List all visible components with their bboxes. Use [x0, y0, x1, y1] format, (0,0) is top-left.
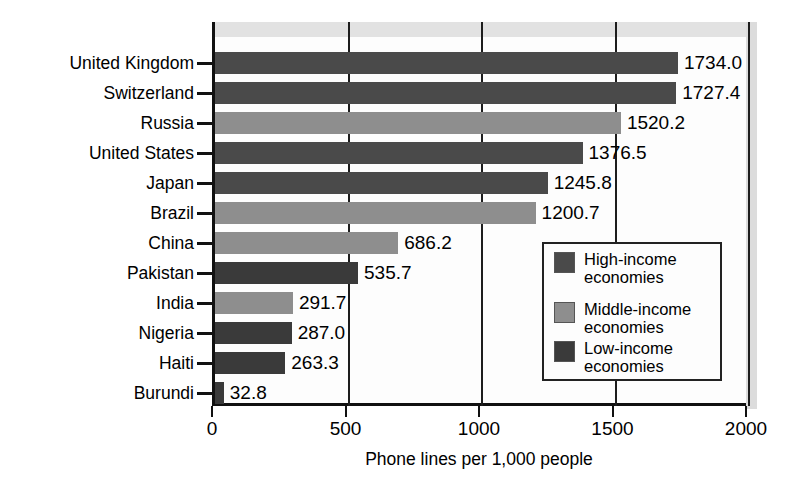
- x-tick-2000: [745, 406, 747, 417]
- bar-value-label: 1734.0: [684, 49, 742, 77]
- x-tick-500: [345, 406, 347, 417]
- bar-row: 1520.2: [215, 108, 749, 138]
- bar-burundi: [215, 382, 224, 404]
- category-label-haiti: Haiti: [159, 348, 194, 378]
- category-label-russia: Russia: [141, 108, 195, 138]
- bar-value-label: 1200.7: [542, 199, 600, 227]
- y-tick: [197, 332, 212, 335]
- y-tick: [197, 302, 212, 305]
- category-label-united-states: United States: [89, 138, 194, 168]
- category-label-japan: Japan: [146, 168, 194, 198]
- bar-russia: [215, 112, 621, 134]
- bar-value-label: 535.7: [364, 259, 412, 287]
- bar-united-kingdom: [215, 52, 678, 74]
- legend-swatch-low-icon: [554, 341, 575, 362]
- y-tick: [197, 92, 212, 95]
- x-tick-label-1500: 1500: [563, 418, 663, 440]
- y-tick: [197, 152, 212, 155]
- x-tick-label-500: 500: [296, 418, 396, 440]
- category-label-burundi: Burundi: [134, 378, 194, 408]
- x-tick-label-2000: 2000: [696, 418, 790, 440]
- bar-india: [215, 292, 293, 314]
- bar-row: 1245.8: [215, 168, 749, 198]
- bar-haiti: [215, 352, 285, 374]
- legend-label: Low-incomeeconomies: [584, 339, 673, 375]
- bar-nigeria: [215, 322, 292, 344]
- legend: High-incomeeconomiesMiddle-incomeeconomi…: [542, 242, 722, 381]
- bar-value-label: 291.7: [299, 289, 347, 317]
- legend-label: High-incomeeconomies: [584, 250, 677, 286]
- legend-item-high: High-incomeeconomies: [554, 250, 677, 286]
- bar-value-label: 1376.5: [589, 139, 647, 167]
- bar-value-label: 1727.4: [682, 79, 740, 107]
- category-label-pakistan: Pakistan: [127, 258, 194, 288]
- bar-row: 1200.7: [215, 198, 749, 228]
- bar-switzerland: [215, 82, 676, 104]
- bar-value-label: 263.3: [291, 349, 339, 377]
- chart-title: [0, 0, 790, 1]
- legend-swatch-middle-icon: [554, 302, 575, 323]
- bar-united-states: [215, 142, 583, 164]
- bar-brazil: [215, 202, 536, 224]
- y-tick: [197, 212, 212, 215]
- bar-value-label: 686.2: [404, 229, 452, 257]
- bar-value-label: 287.0: [298, 319, 346, 347]
- y-tick: [197, 242, 212, 245]
- bar-value-label: 1245.8: [554, 169, 612, 197]
- category-label-nigeria: Nigeria: [139, 318, 194, 348]
- x-tick-1500: [612, 406, 614, 417]
- bar-row: 1376.5: [215, 138, 749, 168]
- x-axis-title: Phone lines per 1,000 people: [212, 449, 746, 470]
- y-tick: [197, 392, 212, 395]
- y-tick: [197, 62, 212, 65]
- y-tick: [197, 122, 212, 125]
- bar-row: 1734.0: [215, 48, 749, 78]
- category-label-brazil: Brazil: [150, 198, 194, 228]
- x-tick-1000: [478, 406, 480, 417]
- legend-label: Middle-incomeeconomies: [584, 300, 691, 336]
- legend-swatch-high-icon: [554, 252, 575, 273]
- category-label-india: India: [156, 288, 194, 318]
- x-tick-0: [211, 406, 213, 417]
- x-tick-label-1000: 1000: [429, 418, 529, 440]
- y-tick: [197, 272, 212, 275]
- bar-japan: [215, 172, 548, 194]
- bar-row: 32.8: [215, 378, 749, 408]
- category-label-china: China: [148, 228, 194, 258]
- y-tick: [197, 362, 212, 365]
- category-label-united-kingdom: United Kingdom: [69, 48, 194, 78]
- bar-value-label: 1520.2: [627, 109, 685, 137]
- x-tick-label-0: 0: [162, 418, 262, 440]
- bar-row: 1727.4: [215, 78, 749, 108]
- legend-item-low: Low-incomeeconomies: [554, 339, 673, 375]
- legend-item-middle: Middle-incomeeconomies: [554, 300, 691, 336]
- category-label-switzerland: Switzerland: [104, 78, 194, 108]
- bar-value-label: 32.8: [230, 379, 267, 407]
- chart-figure: 1734.01727.41520.21376.51245.81200.7686.…: [0, 0, 790, 490]
- bar-china: [215, 232, 398, 254]
- bar-pakistan: [215, 262, 358, 284]
- y-tick: [197, 182, 212, 185]
